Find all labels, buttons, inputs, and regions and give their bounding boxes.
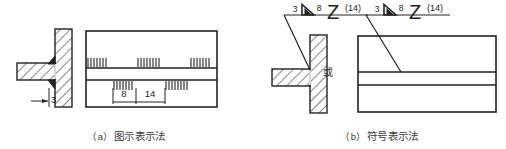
symbol-pitch: (14)	[345, 3, 361, 13]
panel-b-drawing: 3 8 Z (14) 3	[253, 0, 506, 125]
fillet-weld-upper	[48, 56, 55, 64]
stagger-glyph: Z	[409, 1, 421, 23]
weld-segment	[191, 58, 209, 67]
t-joint-section-view: 3	[17, 29, 72, 107]
vertical-plate	[55, 29, 72, 107]
fillet-weld-glyph	[302, 5, 314, 16]
panel-a-caption-text: 图示表示法	[114, 130, 166, 142]
symbol-pitch: (14)	[427, 3, 443, 13]
fillet-weld-glyph	[384, 5, 396, 16]
fillet-weld-lower	[48, 80, 55, 89]
weld-size-value: 3	[51, 95, 56, 105]
panel-a-caption-index: （a）	[87, 131, 113, 142]
leader-line	[284, 15, 310, 70]
weld-size-arrowhead	[42, 99, 48, 103]
panel-a-caption: （a）图示表示法	[0, 128, 253, 143]
horizontal-plate	[17, 63, 55, 80]
intermittent-weld-plan-view: 8 14	[86, 31, 217, 107]
panel-b-caption-text: 符号表示法	[367, 130, 419, 142]
panel-pictorial-method: 3	[0, 0, 253, 149]
dim-value-weld-length: 8	[121, 88, 126, 99]
weld-segment	[88, 58, 106, 67]
symbolic-plan-group: 3 8 Z (14)	[358, 1, 496, 112]
symbol-throat-size: 3	[293, 4, 298, 14]
symbol-throat-size: 3	[375, 4, 380, 14]
weld-segment	[166, 81, 187, 90]
leader-line	[366, 15, 401, 72]
panel-a-drawing: 3	[0, 0, 253, 125]
panel-b-caption-index: （b）	[340, 131, 366, 142]
symbol-segment-length: 8	[399, 3, 404, 13]
welding-symbol-figure: 3	[0, 0, 506, 149]
weld-segments-upper-row	[88, 58, 209, 67]
symbolic-section-group: 3 8 Z (14)	[272, 1, 368, 113]
symbol-segment-length: 8	[317, 3, 322, 13]
panel-symbolic-method: 3 8 Z (14) 3	[253, 0, 506, 149]
plan-dimension-group: 8 14	[113, 88, 165, 104]
horizontal-plate	[272, 69, 310, 86]
panel-b-caption: （b）符号表示法	[253, 128, 506, 143]
dim-value-gap: 14	[145, 88, 156, 99]
weld-segment	[138, 58, 159, 67]
or-label: 或	[323, 64, 333, 79]
plan-outline	[358, 36, 496, 112]
stagger-glyph: Z	[327, 1, 339, 23]
